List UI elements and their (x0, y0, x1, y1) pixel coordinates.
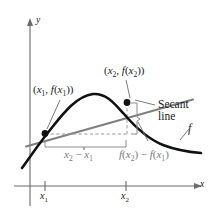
run-label-op: − (73, 148, 85, 160)
tick-label-x2: x2 (121, 191, 129, 204)
secant-line-label-line2: line (158, 110, 175, 122)
run-label: x2 − x1 (64, 149, 93, 163)
x-axis (14, 183, 202, 189)
point-marker-x2 (124, 99, 131, 106)
secant-line-label-line1: Secant (158, 98, 189, 110)
x-axis-label: x (200, 180, 204, 190)
point-marker-x1 (42, 130, 49, 137)
point-label-x2: (x2, f(x2)) (104, 65, 145, 79)
leader-line-x2 (126, 80, 130, 98)
y-axis-label: y (36, 16, 40, 26)
point-label-x1: (x1, f(x1)) (33, 84, 74, 98)
tick-label-x1-sub: 1 (44, 196, 48, 204)
function-label: f (188, 122, 191, 135)
point-label-x2-close: )) (137, 64, 144, 76)
rise-label-close2: ) (165, 148, 169, 160)
tick-label-x2-sub: 2 (125, 196, 129, 204)
run-label-sub2: 1 (89, 154, 93, 163)
rise-label: f(x2) − f(x1) (119, 149, 169, 163)
y-axis (27, 18, 33, 206)
secant-line-figure: y x x1 x2 (x1, f(x1)) (x2, f(x2)) Secant… (0, 0, 209, 214)
rise-label-op: − (138, 148, 150, 160)
point-label-x1-close: )) (66, 83, 73, 95)
tick-label-x1: x1 (40, 191, 48, 204)
leader-line-secant (135, 100, 155, 105)
